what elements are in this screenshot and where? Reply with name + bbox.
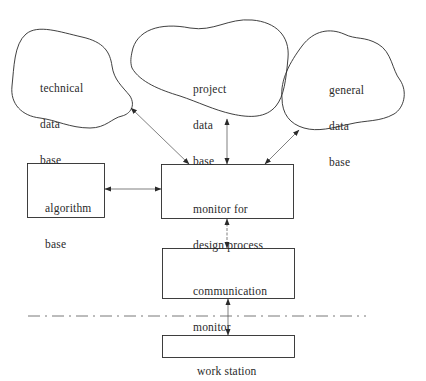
label-line: base (193, 155, 226, 167)
monitor-label: monitor for design process (193, 179, 263, 263)
label-line: base (329, 156, 364, 168)
general-data-base-label: general data base (329, 60, 364, 180)
label-line: base (40, 154, 83, 166)
project-data-base-label: project data base (193, 59, 226, 179)
work-station-label: work station (197, 341, 257, 381)
label-line: general (329, 84, 364, 96)
communication-monitor-label: communication monitor (193, 261, 267, 345)
algorithm-base-label: algorithm base (45, 178, 92, 262)
technical-data-base-label: technical data base (40, 58, 83, 178)
arrow-technical-monitor (131, 108, 189, 164)
label-line: communication (193, 285, 267, 297)
label-line: data (40, 118, 83, 130)
label-line: data (193, 119, 226, 131)
label-line: design process (193, 239, 263, 251)
label-line: data (329, 120, 364, 132)
label-line: technical (40, 82, 83, 94)
label-line: algorithm (45, 202, 92, 214)
label-line: work station (197, 365, 257, 377)
label-line: base (45, 238, 92, 250)
label-line: monitor (193, 321, 267, 333)
label-line: monitor for (193, 203, 263, 215)
arrow-general-monitor (265, 130, 299, 164)
label-line: project (193, 83, 226, 95)
